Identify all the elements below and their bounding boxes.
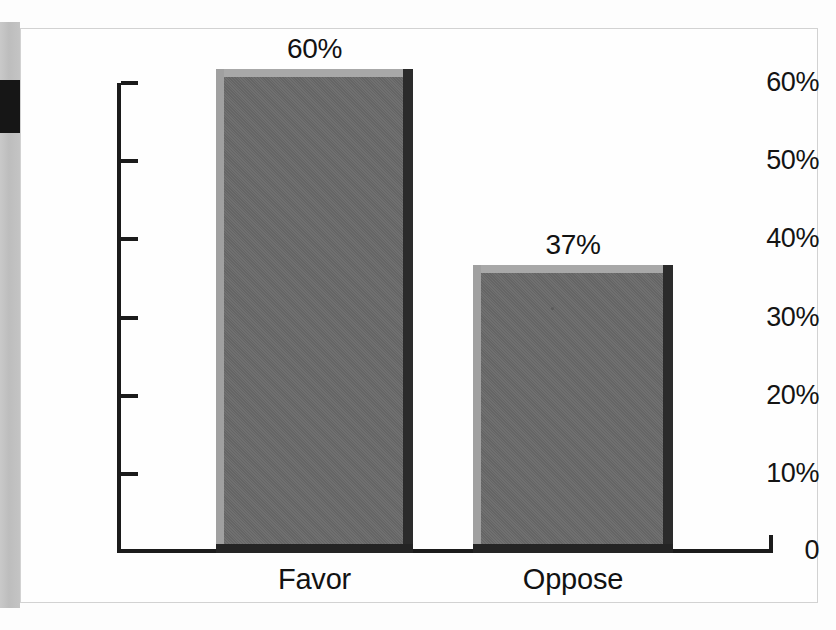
- bar-favor-face: [224, 77, 403, 544]
- category-label-favor: Favor: [216, 563, 413, 596]
- bar-favor-right-shadow: [403, 69, 413, 553]
- value-label-oppose: 37%: [473, 229, 673, 261]
- bar-oppose-face: [481, 273, 663, 544]
- y-axis-label-0: 0: [733, 535, 819, 566]
- value-label-favor: 60%: [216, 33, 413, 65]
- bar-oppose-bottom-shadow: [473, 544, 673, 553]
- y-axis-label-60: 60%: [733, 67, 819, 98]
- bar-favor[interactable]: [216, 69, 413, 553]
- y-axis-label-20: 20%: [733, 380, 819, 411]
- y-tick-60: [121, 81, 138, 85]
- chart-frame: 60% 50% 40% 30% 20% 10% 0 60% 37% Favor: [20, 28, 818, 603]
- y-tick-20: [121, 394, 138, 398]
- bar-chart: 60% 50% 40% 30% 20% 10% 0 60% 37% Favor: [21, 29, 819, 604]
- y-axis-label-30: 30%: [733, 302, 819, 333]
- y-tick-30: [121, 316, 138, 320]
- y-tick-40: [121, 237, 138, 241]
- y-tick-50: [121, 159, 138, 163]
- category-label-oppose: Oppose: [473, 563, 673, 596]
- y-axis-label-10: 10%: [733, 458, 819, 489]
- bar-favor-left-bevel: [216, 69, 224, 553]
- bar-favor-bottom-shadow: [216, 544, 413, 553]
- y-axis-label-50: 50%: [733, 145, 819, 176]
- y-tick-10: [121, 472, 138, 476]
- bar-oppose-left-bevel: [473, 265, 481, 553]
- scan-black-block-artifact: [0, 80, 20, 133]
- bar-oppose[interactable]: [473, 265, 673, 553]
- bar-favor-top-bevel: [216, 69, 413, 77]
- scan-speck: [551, 307, 554, 310]
- bar-oppose-top-bevel: [473, 265, 673, 273]
- y-axis-label-40: 40%: [733, 223, 819, 254]
- bar-oppose-right-shadow: [663, 265, 673, 553]
